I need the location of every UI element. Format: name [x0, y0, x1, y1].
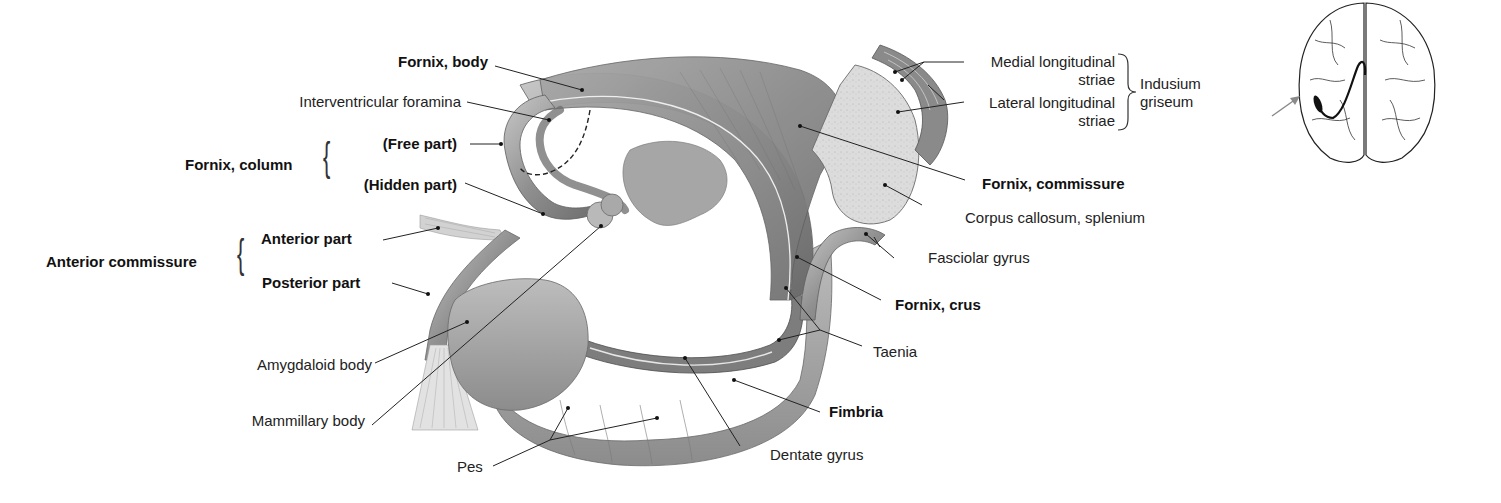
label-amygdaloid-body: Amygdaloid body: [257, 356, 372, 374]
label-fornix-crus: Fornix, crus: [895, 296, 981, 314]
label-free-part: (Free part): [383, 135, 457, 153]
mammillary-bodies: [587, 194, 623, 228]
locator-brain: [1272, 3, 1435, 162]
label-fimbria: Fimbria: [829, 403, 883, 421]
label-interventricular-foramina: Interventricular foramina: [299, 93, 461, 111]
label-dentate-gyrus: Dentate gyrus: [770, 446, 863, 464]
label-indusium-griseum-1: Indusium: [1140, 75, 1201, 93]
anterior-commissure-brace: {: [237, 234, 244, 274]
label-corpus-callosum-splenium: Corpus callosum, splenium: [965, 209, 1145, 227]
label-medial-longitudinal-striae-2: striae: [1078, 71, 1115, 89]
label-fornix-column: Fornix, column: [185, 156, 293, 174]
label-taenia: Taenia: [873, 343, 917, 361]
label-indusium-griseum-2: griseum: [1140, 93, 1193, 111]
label-hidden-part: (Hidden part): [364, 176, 457, 194]
label-mammillary-body: Mammillary body: [252, 412, 365, 430]
label-lateral-longitudinal-striae-2: striae: [1078, 112, 1115, 130]
label-anterior-commissure: Anterior commissure: [46, 253, 197, 271]
locator-arrow-icon: [1272, 99, 1296, 116]
label-fornix-body: Fornix, body: [398, 53, 488, 71]
label-anterior-part: Anterior part: [261, 230, 352, 248]
label-lateral-longitudinal-striae-1: Lateral longitudinal: [989, 94, 1115, 112]
label-pes: Pes: [457, 458, 483, 476]
label-posterior-part: Posterior part: [262, 274, 360, 292]
label-fornix-commissure: Fornix, commissure: [982, 175, 1125, 193]
thalamus-shape: [623, 141, 727, 225]
label-medial-longitudinal-striae-1: Medial longitudinal: [991, 53, 1115, 71]
fornix-diagram: Fornix, body Interventricular foramina F…: [0, 0, 1501, 503]
anatomy-illustration: [0, 0, 1501, 503]
fornix-column-brace: {: [323, 137, 330, 177]
label-fasciolar-gyrus: Fasciolar gyrus: [928, 249, 1030, 267]
indusium-brace: [1118, 54, 1136, 130]
fimbria-band: [582, 290, 803, 373]
anterior-commissure-fibers: [420, 215, 505, 240]
